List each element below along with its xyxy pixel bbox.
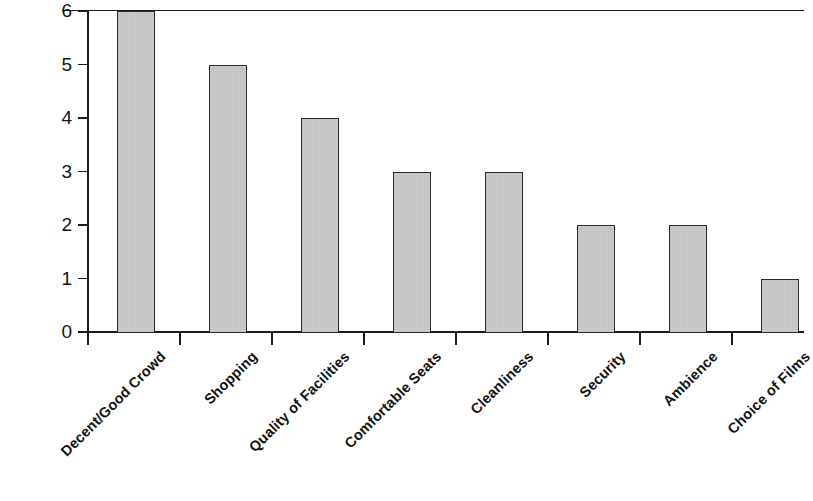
y-axis-tick-label: 6 <box>44 1 72 20</box>
bar <box>301 118 339 333</box>
x-axis-category-label: Quality of Facilities <box>246 349 352 455</box>
bar <box>393 172 431 334</box>
y-axis-tick-label-text: 0 <box>44 322 72 341</box>
y-axis-tick-label-text: 1 <box>44 269 72 288</box>
x-axis-tick <box>547 332 549 345</box>
y-axis-tick <box>78 171 88 173</box>
x-axis-category-label: Ambience <box>660 349 720 409</box>
gridline-top <box>62 10 804 11</box>
y-axis-tick <box>78 278 88 280</box>
x-axis-category-label: Shopping <box>202 349 260 407</box>
x-axis-category-label: Choice of Films <box>725 349 813 437</box>
x-axis-tick <box>363 332 365 345</box>
y-axis-tick-label-text: 6 <box>44 1 72 20</box>
y-axis-tick-label: 5 <box>44 55 72 74</box>
bar <box>577 225 615 333</box>
y-axis-tick <box>78 117 88 119</box>
y-axis-tick-label-text: 3 <box>44 162 72 181</box>
bar <box>669 225 707 333</box>
x-axis-category-label: Cleanliness <box>468 349 536 417</box>
y-axis-tick-label-text: 2 <box>44 215 72 234</box>
bar <box>485 172 523 334</box>
x-axis-tick <box>271 332 273 345</box>
y-axis-tick-label: 0 <box>44 322 72 341</box>
y-axis-tick-label: 3 <box>44 162 72 181</box>
bar <box>117 11 155 333</box>
x-axis-category-label: Comfortable Seats <box>342 349 444 451</box>
y-axis-tick-label: 4 <box>44 108 72 127</box>
y-axis-tick <box>78 64 88 66</box>
x-axis-category-label: Security <box>577 349 629 401</box>
x-axis-category-label: Decent/Good Crowd <box>58 349 168 459</box>
y-axis-tick <box>78 10 88 12</box>
y-axis-tick <box>78 224 88 226</box>
bar <box>209 65 247 334</box>
x-axis-tick <box>179 332 181 345</box>
y-axis-tick-label: 1 <box>44 269 72 288</box>
bar <box>761 279 799 334</box>
x-axis-tick <box>731 332 733 345</box>
y-axis-tick-label: 2 <box>44 215 72 234</box>
y-axis-tick-label-text: 4 <box>44 108 72 127</box>
x-axis-tick <box>455 332 457 345</box>
x-axis-tick <box>639 332 641 345</box>
x-axis-tick <box>87 332 89 345</box>
y-axis-tick-label-text: 5 <box>44 55 72 74</box>
